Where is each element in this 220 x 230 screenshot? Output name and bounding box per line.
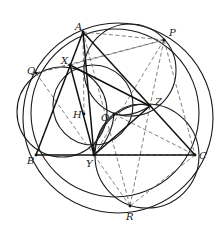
point-R — [129, 205, 132, 208]
label-X: X — [60, 55, 69, 66]
segment-XZ — [70, 65, 150, 106]
label-P: P — [168, 27, 176, 38]
dashed-segment-QP — [36, 40, 164, 73]
label-R: R — [125, 211, 134, 222]
label-Q: Q — [27, 65, 35, 76]
point-Z — [149, 105, 152, 108]
dashed-segment-AP — [83, 32, 164, 40]
point-Y — [93, 154, 96, 157]
geometry-diagram: APXQHOZBYCR — [0, 0, 220, 230]
label-O: O — [101, 112, 109, 123]
point-O — [113, 113, 116, 116]
point-B — [35, 154, 38, 157]
point-P — [163, 39, 166, 42]
point-C — [194, 154, 197, 157]
dashed-segment-YR — [94, 155, 130, 206]
label-H: H — [72, 109, 82, 120]
point-X — [69, 64, 72, 67]
point-H — [83, 113, 86, 116]
label-C: C — [199, 150, 207, 161]
label-A: A — [74, 21, 82, 32]
label-Y: Y — [86, 158, 94, 169]
label-B: B — [26, 155, 34, 166]
dashed-segment-CR — [130, 155, 195, 206]
label-Z: Z — [154, 96, 163, 107]
circle-AXOZP — [84, 24, 176, 116]
dashed-segment-OC — [114, 114, 195, 155]
dashed-lines-layer — [36, 32, 195, 206]
labels-layer: APXQHOZBYCR — [26, 21, 207, 222]
